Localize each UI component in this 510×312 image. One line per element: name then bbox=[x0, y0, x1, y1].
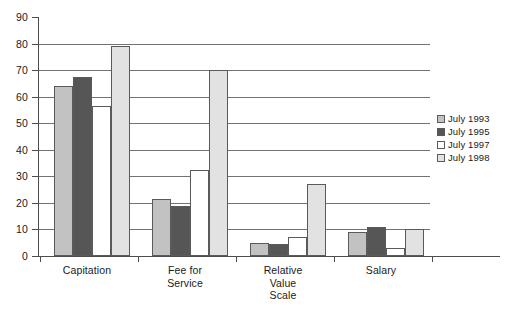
x-tick-mark bbox=[432, 256, 433, 262]
x-tick-label-line: Scale bbox=[234, 289, 332, 302]
y-tick-label: 10 bbox=[4, 224, 28, 234]
y-tick-label: 20 bbox=[4, 198, 28, 208]
x-tick-label-line: Relative bbox=[234, 264, 332, 277]
x-axis-line bbox=[38, 256, 500, 257]
x-tick-label: Fee forService bbox=[136, 264, 234, 289]
legend-item[interactable]: July 1995 bbox=[437, 126, 490, 139]
bar bbox=[288, 237, 307, 256]
x-tick-label-line: Salary bbox=[332, 264, 430, 277]
x-tick-label: Salary bbox=[332, 264, 430, 277]
legend-label: July 1998 bbox=[448, 153, 490, 163]
x-tick-label: Capitation bbox=[38, 264, 136, 277]
y-tick-label: 50 bbox=[4, 118, 28, 128]
legend-swatch-icon bbox=[437, 115, 445, 123]
x-tick-label: RelativeValueScale bbox=[234, 264, 332, 302]
bar bbox=[190, 170, 209, 256]
legend-swatch-icon bbox=[437, 128, 445, 136]
bar bbox=[152, 199, 171, 256]
bar-chart: 9080706050403020100 CapitationFee forSer… bbox=[0, 0, 510, 312]
plot-area bbox=[38, 17, 430, 256]
bar bbox=[250, 243, 269, 256]
x-tick-mark bbox=[236, 256, 237, 262]
x-tick-label-line: Value bbox=[234, 277, 332, 290]
bar bbox=[111, 46, 130, 256]
bar bbox=[209, 70, 228, 256]
x-tick-label-line: Capitation bbox=[38, 264, 136, 277]
y-tick-label: 30 bbox=[4, 171, 28, 181]
bar bbox=[269, 244, 288, 256]
y-tick-label: 80 bbox=[4, 39, 28, 49]
y-axis-line bbox=[38, 17, 39, 257]
x-tick-mark bbox=[334, 256, 335, 262]
y-tick-label: 60 bbox=[4, 92, 28, 102]
y-tick-label: 40 bbox=[4, 145, 28, 155]
legend-swatch-icon bbox=[437, 154, 445, 162]
x-tick-label-line: Service bbox=[136, 277, 234, 290]
chart-legend: July 1993July 1995July 1997July 1998 bbox=[437, 113, 490, 165]
bar bbox=[405, 229, 424, 256]
bar bbox=[171, 206, 190, 256]
bar bbox=[367, 227, 386, 256]
legend-label: July 1997 bbox=[448, 140, 490, 150]
x-tick-mark bbox=[40, 256, 41, 262]
legend-label: July 1993 bbox=[448, 114, 490, 124]
legend-item[interactable]: July 1997 bbox=[437, 139, 490, 152]
legend-item[interactable]: July 1993 bbox=[437, 113, 490, 126]
bar bbox=[386, 248, 405, 256]
y-tick-label: 90 bbox=[4, 12, 28, 22]
bar-group bbox=[136, 17, 234, 256]
y-tick-label: 70 bbox=[4, 65, 28, 75]
bar bbox=[54, 86, 73, 256]
bar-group bbox=[332, 17, 430, 256]
bar bbox=[92, 106, 111, 256]
bar bbox=[73, 77, 92, 256]
x-tick-mark bbox=[138, 256, 139, 262]
y-tick-label: 0 bbox=[4, 251, 28, 261]
x-tick-label-line: Fee for bbox=[136, 264, 234, 277]
legend-label: July 1995 bbox=[448, 127, 490, 137]
bar bbox=[348, 232, 367, 256]
legend-item[interactable]: July 1998 bbox=[437, 152, 490, 165]
legend-swatch-icon bbox=[437, 141, 445, 149]
bar-group bbox=[38, 17, 136, 256]
bar bbox=[307, 184, 326, 256]
bar-group bbox=[234, 17, 332, 256]
